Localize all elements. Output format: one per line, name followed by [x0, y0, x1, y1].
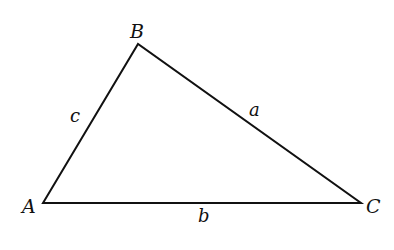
side-label-c: c [70, 105, 80, 126]
triangle-abc [43, 44, 361, 203]
side-label-a: a [249, 99, 260, 120]
vertex-label-b: B [129, 20, 144, 42]
vertex-label-c: C [366, 195, 381, 217]
vertex-label-a: A [20, 195, 36, 217]
side-label-b: b [198, 205, 210, 226]
triangle-diagram: A B C a b c [0, 0, 394, 250]
